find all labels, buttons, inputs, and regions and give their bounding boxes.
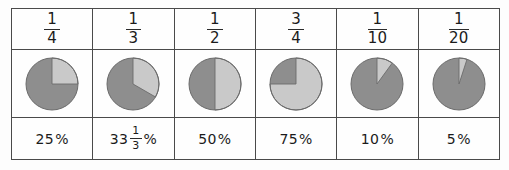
percent-whole: 10: [361, 132, 380, 146]
table-row-percents: 25% 3313% 50% 75%: [12, 118, 500, 160]
percent-symbol: %: [55, 132, 69, 146]
fraction-cell-0: 1 4: [12, 9, 93, 50]
fraction-numerator: 1: [368, 12, 388, 30]
percent-whole: 50: [198, 132, 217, 146]
pie-chart-one-tenth: [337, 50, 417, 117]
pie-cell-5: [418, 50, 499, 118]
worksheet-canvas: 1 4 1 3 1 2: [0, 0, 509, 170]
pie-svg: [267, 55, 325, 113]
percent-cell-3: 75%: [255, 118, 336, 160]
pie-cell-4: [337, 50, 418, 118]
percent-cell-4: 10%: [337, 118, 418, 160]
percent-cell-1: 3313%: [93, 118, 174, 160]
fraction-numerator: 1: [44, 12, 60, 30]
pie-chart-one-twentieth: [419, 50, 499, 117]
percent-value-three-quarters: 75%: [279, 132, 312, 146]
fraction-numerator: 3: [288, 12, 304, 30]
fraction-cell-4: 1 10: [337, 9, 418, 50]
percent-whole: 5: [447, 132, 456, 146]
percent-whole: 25: [36, 132, 55, 146]
fraction-three-quarters: 3 4: [288, 12, 304, 47]
percent-whole: 33: [110, 132, 129, 146]
table-row-pie-charts: [12, 50, 500, 118]
pie-chart-one-quarter: [12, 50, 92, 117]
fraction-denominator: 10: [368, 30, 388, 47]
pie-svg: [348, 55, 406, 113]
percent-symbol: %: [457, 132, 471, 146]
fraction-denominator: 2: [207, 30, 223, 47]
percent-fraction-denominator: 3: [130, 139, 141, 152]
fraction-numerator: 1: [126, 12, 142, 30]
percent-symbol: %: [144, 132, 158, 146]
pie-cell-3: [255, 50, 336, 118]
percent-cell-2: 50%: [174, 118, 255, 160]
pie-svg: [23, 55, 81, 113]
percent-fraction-numerator: 1: [130, 125, 141, 139]
fraction-denominator: 4: [288, 30, 304, 47]
pie-shaded-slice: [215, 58, 241, 110]
pie-chart-one-third: [93, 50, 173, 117]
pie-chart-one-half: [175, 50, 255, 117]
pie-cell-0: [12, 50, 93, 118]
pie-svg: [104, 55, 162, 113]
fraction-numerator: 1: [449, 12, 469, 30]
percent-value-one-twentieth: 5%: [447, 132, 471, 146]
percent-whole: 75: [279, 132, 298, 146]
fraction-one-twentieth: 1 20: [449, 12, 469, 47]
percent-value-one-quarter: 25%: [36, 132, 69, 146]
percent-symbol: %: [299, 132, 313, 146]
fraction-denominator: 20: [449, 30, 469, 47]
percent-symbol: %: [380, 132, 394, 146]
percent-cell-0: 25%: [12, 118, 93, 160]
fraction-one-half: 1 2: [207, 12, 223, 47]
fraction-denominator: 4: [44, 30, 60, 47]
fraction-cell-2: 1 2: [174, 9, 255, 50]
pie-chart-three-quarters: [256, 50, 336, 117]
fraction-one-tenth: 1 10: [368, 12, 388, 47]
fraction-cell-3: 3 4: [255, 9, 336, 50]
percent-value-one-third: 3313%: [110, 125, 158, 151]
percent-value-one-tenth: 10%: [361, 132, 394, 146]
percent-cell-5: 5%: [418, 118, 499, 160]
fraction-one-third: 1 3: [126, 12, 142, 47]
pie-svg: [186, 55, 244, 113]
percent-value-one-half: 50%: [198, 132, 231, 146]
fraction-numerator: 1: [207, 12, 223, 30]
percent-symbol: %: [218, 132, 232, 146]
pie-cell-1: [93, 50, 174, 118]
table-row-fractions: 1 4 1 3 1 2: [12, 9, 500, 50]
percent-fraction-part: 13: [130, 125, 141, 151]
fraction-cell-1: 1 3: [93, 9, 174, 50]
pie-svg: [430, 55, 488, 113]
fraction-percent-table: 1 4 1 3 1 2: [11, 8, 500, 160]
pie-cell-2: [174, 50, 255, 118]
fraction-one-quarter: 1 4: [44, 12, 60, 47]
fraction-cell-5: 1 20: [418, 9, 499, 50]
fraction-denominator: 3: [126, 30, 142, 47]
